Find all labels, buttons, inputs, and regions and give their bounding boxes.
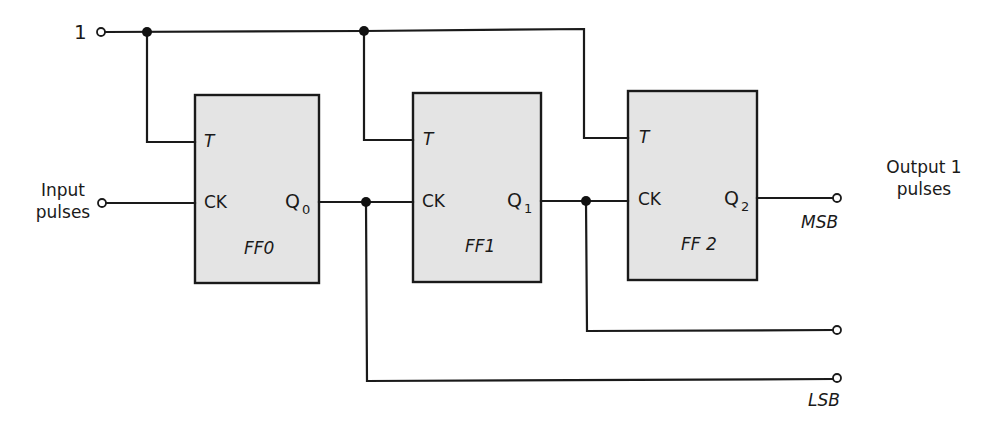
- logic-high-label: 1: [74, 22, 87, 42]
- ff2-ck-pin-label: CK: [638, 191, 661, 208]
- ff0-t-pin-label: T: [204, 133, 214, 150]
- clock-label-line2: pulses: [34, 201, 92, 223]
- clock-label-line1: Input: [34, 179, 92, 201]
- logic-high-terminal: [97, 28, 105, 36]
- ff0-t-wire: [147, 32, 195, 142]
- circuit-wiring: [0, 0, 986, 426]
- q1-output-terminal: [833, 326, 841, 334]
- junction-dot: [361, 197, 371, 207]
- q-subscript: 2: [741, 199, 749, 214]
- output-label-line2: pulses: [868, 178, 980, 200]
- q-letter: Q: [285, 190, 300, 212]
- ripple-counter-diagram: 1 Input pulses T CK Q0 FF0 T CK Q1 FF1 T…: [0, 0, 986, 426]
- logic-high-bus-wire: [105, 29, 628, 138]
- q-subscript: 1: [524, 201, 532, 216]
- ff2-t-pin-label: T: [639, 129, 649, 146]
- output-pulses-label: Output 1 pulses: [868, 156, 980, 200]
- q-letter: Q: [507, 189, 522, 211]
- output-label-line1: Output 1: [868, 156, 980, 178]
- ff1-q-pin-label: Q1: [507, 191, 532, 215]
- ff0-q-pin-label: Q0: [285, 192, 310, 216]
- ff1-ck-pin-label: CK: [422, 193, 445, 210]
- q-letter: Q: [724, 187, 739, 209]
- clock-input-label: Input pulses: [34, 179, 92, 223]
- clock-input-terminal: [98, 199, 106, 207]
- ff0-name-label: FF0: [244, 240, 274, 257]
- ff2-q-pin-label: Q2: [724, 189, 749, 213]
- junction-dot: [359, 26, 369, 36]
- ff1-name-label: FF1: [465, 238, 495, 255]
- junction-dot: [581, 196, 591, 206]
- msb-label: MSB: [801, 214, 838, 231]
- junction-dot: [142, 27, 152, 37]
- ff1-t-pin-label: T: [423, 131, 433, 148]
- ff2-name-label: FF 2: [681, 236, 717, 253]
- ff1-t-wire: [364, 31, 413, 140]
- msb-output-terminal: [833, 194, 841, 202]
- lsb-label: LSB: [808, 392, 840, 409]
- q-subscript: 0: [302, 202, 310, 217]
- ff0-ck-pin-label: CK: [204, 194, 227, 211]
- lsb-output-terminal: [833, 374, 841, 382]
